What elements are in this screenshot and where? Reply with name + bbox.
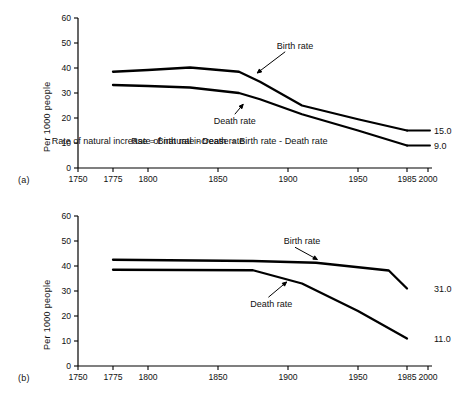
end-value-label: 15.0 — [434, 126, 452, 136]
y-tick-label: 40 — [61, 261, 71, 271]
x-tick-label: 2000 — [418, 174, 437, 184]
y-tick-label: 60 — [61, 211, 71, 221]
birth-rate-leader-a — [257, 52, 285, 73]
x-tick-label: 1850 — [208, 174, 227, 184]
end-value-label: 9.0 — [434, 141, 447, 151]
x-tick-label: 1800 — [138, 174, 157, 184]
y-tick-label: 20 — [61, 113, 71, 123]
x-tick-label: 1950 — [348, 372, 367, 382]
natural-increase-formula: Rate of natural increase = Birth rate - … — [131, 136, 327, 146]
y-tick-label: 0 — [66, 361, 71, 371]
birth-rate-leader-b-head — [313, 256, 318, 260]
y-tick-label: 30 — [61, 286, 71, 296]
series-annotation-label: Birth rate — [277, 41, 314, 51]
x-tick-label: 2000 — [418, 372, 437, 382]
end-value-label: 11.0 — [434, 334, 451, 344]
y-tick-label: 50 — [61, 38, 71, 48]
x-tick-label: 1900 — [278, 174, 297, 184]
x-tick-label: 1750 — [68, 372, 87, 382]
x-tick-label: 1775 — [103, 372, 122, 382]
series-line-birth-rate — [113, 260, 407, 289]
y-tick-label: 60 — [61, 13, 71, 23]
y-tick-label: 40 — [61, 63, 71, 73]
chart-panel-b: Per 1000 people (b) 01020304050601750177… — [0, 198, 462, 398]
x-tick-label: 1750 — [68, 174, 87, 184]
x-tick-label: 1950 — [348, 174, 367, 184]
x-tick-label: 1775 — [103, 174, 122, 184]
y-tick-label: 30 — [61, 88, 71, 98]
chart-svg-b: 0102030405060175017751800185019001950198… — [0, 198, 462, 398]
end-value-label: 31.0 — [434, 284, 452, 294]
y-tick-label: 10 — [61, 336, 71, 346]
x-tick-label: 1800 — [138, 372, 157, 382]
y-tick-label: 0 — [66, 163, 71, 173]
series-annotation-label: Birth rate — [284, 236, 321, 246]
chart-panel-a: Per 1000 people (a) 01020304050601750177… — [0, 0, 462, 200]
x-tick-label: 1985 — [397, 372, 416, 382]
x-tick-label: 1850 — [208, 372, 227, 382]
chart-svg-a: 0102030405060175017751800185019001950198… — [0, 0, 462, 200]
x-tick-label: 1985 — [397, 174, 416, 184]
y-tick-label: 20 — [61, 311, 71, 321]
series-annotation-label: Death rate — [214, 116, 256, 126]
y-tick-label: 50 — [61, 236, 71, 246]
series-annotation-label: Death rate — [250, 299, 292, 309]
x-tick-label: 1900 — [278, 372, 297, 382]
